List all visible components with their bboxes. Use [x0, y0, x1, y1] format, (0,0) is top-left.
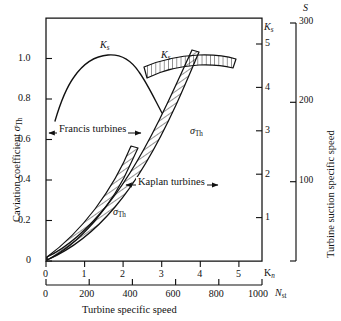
francis-ks-label-sub: s [107, 44, 110, 52]
kaplan-sigma-band [47, 50, 199, 260]
francis-sigma-band-label: σTh [113, 207, 126, 219]
right-ks-tick-3: 3 [265, 125, 270, 135]
bottom-nst-tick-0: 0 [43, 289, 48, 299]
nst-symbol-sub: st [282, 292, 287, 300]
ks-axis-symbol-sub: s [271, 26, 274, 34]
bottom-secondary-axis [46, 279, 262, 285]
right-ks-tick-2: 2 [265, 169, 270, 179]
right-s-tick-300: 300 [299, 17, 313, 27]
right-ks-tick-1: 1 [265, 212, 270, 222]
kaplan-ks-label-sub: s [168, 54, 171, 62]
bottom-primary-ticks [46, 261, 239, 267]
right-ks-tick-4: 4 [265, 82, 270, 92]
left-axis-title-symbol: σ [11, 126, 22, 131]
francis-ks-label-symbol: K [100, 39, 107, 50]
left-tick-label-0: 0 [26, 255, 31, 265]
bottom-kn-tick-5: 5 [236, 269, 241, 279]
left-axis-ticks [46, 59, 52, 262]
kaplan-ks-band-label: Ks [161, 50, 170, 62]
francis-ks-curve [55, 55, 162, 121]
bottom-nst-axis-symbol: Nst [275, 288, 286, 300]
nst-symbol: N [275, 287, 282, 298]
bottom-nst-tick-800: 800 [209, 289, 224, 299]
bottom-nst-tick-1000: 1000 [248, 289, 268, 299]
bottom-kn-tick-0: 0 [43, 269, 48, 279]
left-tick-label-08: 0.8 [18, 93, 31, 103]
bottom-nst-tick-600: 600 [166, 289, 181, 299]
cavitation-coefficient-figure: 0 0.2 0.4 0.6 0.8 1.0 Caviation coeffici… [0, 0, 341, 321]
francis-ks-label: Ks [100, 40, 109, 52]
right-outer-axis [290, 23, 296, 261]
bottom-kn-tick-2: 2 [120, 269, 125, 279]
bottom-nst-tick-200: 200 [79, 289, 94, 299]
francis-sigma-band [47, 146, 138, 260]
right-ks-tick-5: 5 [265, 38, 270, 48]
bottom-kn-tick-3: 3 [159, 269, 164, 279]
right-inner-axis-ticks [256, 44, 262, 218]
right-outer-axis-title: Turbine suction specific speed [326, 130, 337, 258]
francis-sigma-label-sub: Th [118, 211, 126, 219]
right-s-tick-100: 100 [299, 176, 313, 186]
kaplan-sigma-band-label: σTh [190, 126, 203, 138]
francis-turbines-label: Francis turbines [57, 124, 128, 135]
bottom-axis-caption: Turbine specific speed [82, 305, 177, 316]
bottom-nst-tick-400: 400 [122, 289, 137, 299]
right-s-tick-200: 200 [299, 96, 313, 106]
right-s-axis-symbol: S [303, 3, 308, 13]
kaplan-ks-label-symbol: K [161, 49, 168, 60]
left-axis-title-symbol-sub: Th [15, 118, 24, 126]
bottom-kn-tick-1: 1 [82, 269, 87, 279]
left-axis-title-text: Caviation coefficient [11, 134, 22, 222]
ks-axis-symbol: K [264, 21, 271, 32]
left-tick-label-10: 1.0 [18, 53, 31, 63]
bottom-kn-axis-symbol: Kn [264, 268, 275, 280]
chart-canvas [0, 0, 341, 321]
kaplan-turbines-label: Kaplan turbines [136, 177, 207, 188]
left-axis-title: Caviation coefficient σTh [12, 118, 23, 222]
kaplan-sigma-label-sub: Th [195, 130, 203, 138]
right-ks-axis-symbol: Ks [264, 22, 273, 34]
bottom-kn-tick-4: 4 [197, 269, 202, 279]
kn-symbol-sub: n [271, 272, 275, 280]
